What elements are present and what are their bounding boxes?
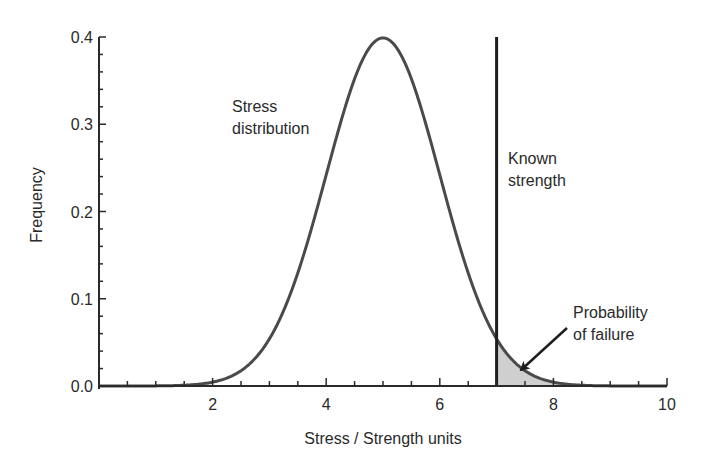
probability-of-failure-label-line2: of failure bbox=[573, 326, 634, 343]
failure-probability-region bbox=[497, 339, 667, 386]
probability-of-failure-label-line1: Probability bbox=[573, 304, 648, 321]
stress-distribution-label-line1: Stress bbox=[232, 98, 277, 115]
failure-arrow-icon bbox=[521, 328, 567, 370]
known-strength-label-line1: Known bbox=[508, 150, 557, 167]
y-tick-label: 0.0 bbox=[71, 378, 93, 395]
probability-of-failure-label: Probability of failure bbox=[573, 304, 652, 343]
x-axis-label: Stress / Strength units bbox=[304, 430, 461, 447]
x-tick-labels: 246810 bbox=[208, 396, 676, 413]
y-tick-label: 0.3 bbox=[71, 116, 93, 133]
x-tick-label: 8 bbox=[549, 396, 558, 413]
known-strength-label: Known strength bbox=[508, 150, 566, 189]
x-tick-label: 6 bbox=[435, 396, 444, 413]
y-axis-label: Frequency bbox=[28, 167, 45, 243]
stress-distribution-label: Stress distribution bbox=[232, 98, 309, 137]
stress-strength-chart: Stress / Strength units Frequency Stress… bbox=[0, 0, 701, 464]
y-tick-label: 0.2 bbox=[71, 204, 93, 221]
y-axis-ticks bbox=[99, 37, 106, 386]
x-tick-label: 10 bbox=[658, 396, 676, 413]
stress-distribution-label-line2: distribution bbox=[232, 120, 309, 137]
x-tick-label: 4 bbox=[322, 396, 331, 413]
y-tick-label: 0.1 bbox=[71, 291, 93, 308]
y-tick-labels: 0.00.10.20.30.4 bbox=[71, 29, 93, 395]
known-strength-label-line2: strength bbox=[508, 172, 566, 189]
x-tick-label: 2 bbox=[208, 396, 217, 413]
y-tick-label: 0.4 bbox=[71, 29, 93, 46]
